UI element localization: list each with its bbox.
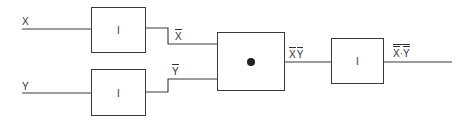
label-x-bar: X	[175, 29, 182, 43]
inverter-symbol: I	[92, 87, 145, 98]
final-output-overbar: X·Y	[393, 44, 410, 60]
and-out-y-text: Y	[297, 47, 304, 61]
label-y-bar: Y	[172, 64, 179, 78]
inverter-gate-y: I	[91, 69, 146, 116]
final-x-text: X	[393, 46, 400, 60]
input-label-y: Y	[22, 81, 29, 93]
inverter-symbol: I	[92, 25, 145, 36]
and-out-x-text: X	[289, 47, 296, 61]
x-bar-text: X	[175, 29, 182, 43]
final-y-text: Y	[403, 46, 410, 60]
inverter-gate-output: I	[331, 38, 384, 84]
inverter-symbol: I	[332, 56, 383, 67]
inverter-gate-x: I	[91, 7, 146, 53]
label-final-output: X·Y	[393, 44, 410, 60]
input-label-x: X	[22, 16, 29, 28]
wire-ybar	[145, 79, 217, 92]
and-gate	[217, 32, 285, 91]
label-and-output: XY	[289, 47, 303, 61]
y-bar-text: Y	[172, 64, 179, 78]
and-dot-icon	[247, 58, 255, 66]
